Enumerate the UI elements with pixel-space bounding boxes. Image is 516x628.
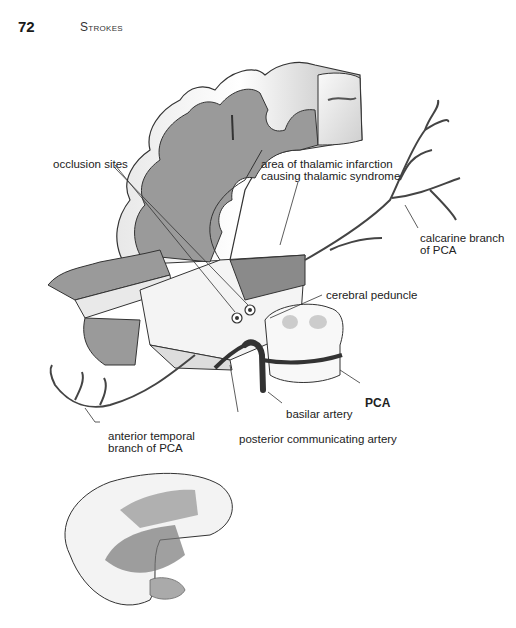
medial-brain-inset [65, 473, 232, 605]
label-posterior-communicating-artery: posterior communicating artery [239, 433, 397, 446]
label-thalamic-area-line2: causing thalamic syndrome [261, 170, 400, 183]
label-occlusion-sites: occlusion sites [53, 158, 128, 171]
brain-cross-section-illustration [0, 0, 516, 628]
label-anterior-temporal-line1: anterior temporal [108, 430, 195, 443]
label-cerebral-peduncle: cerebral peduncle [326, 289, 417, 302]
label-anterior-temporal-line2: branch of PCA [108, 442, 183, 455]
label-calcarine-line2: of PCA [420, 244, 456, 257]
label-pca: PCA [365, 397, 390, 410]
label-basilar-artery: basilar artery [286, 408, 352, 421]
label-thalamic-area-line1: area of thalamic infarction [261, 158, 393, 171]
label-calcarine-line1: calcarine branch [420, 232, 504, 245]
